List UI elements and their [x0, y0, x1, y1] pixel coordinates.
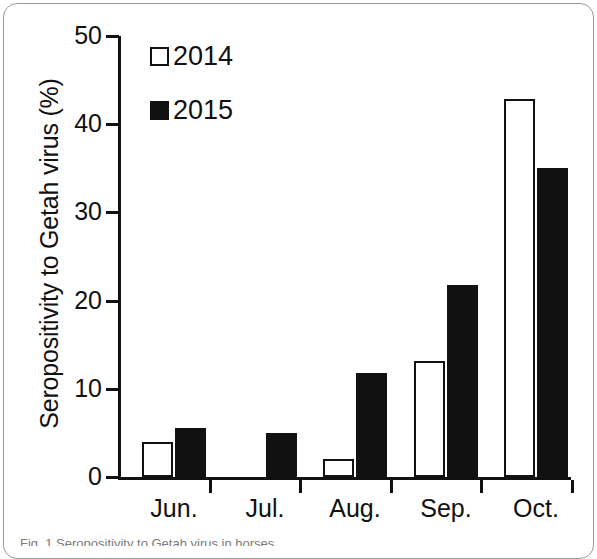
y-axis-tick-mark [106, 476, 119, 479]
y-axis-line [118, 36, 121, 479]
bar-2015-oct [537, 168, 568, 477]
legend-item-2014: 2014 [150, 38, 233, 74]
x-axis-tick-mark [571, 480, 574, 493]
y-axis-tick-label: 0 [46, 464, 102, 489]
y-axis-tick-label: 20 [46, 288, 102, 313]
x-axis-category-label: Sep. [402, 494, 490, 523]
bar-2015-jun [175, 428, 206, 477]
x-axis-tick-mark [480, 480, 483, 493]
legend-item-label: 2015 [173, 97, 233, 124]
legend-swatch-icon [150, 47, 169, 66]
y-axis-tick-labels: 01020304050 [46, 0, 102, 546]
y-axis-tick-mark [106, 35, 119, 38]
x-axis-tick-mark [209, 480, 212, 493]
legend-item-2015: 2015 [150, 92, 233, 128]
bar-2015-sep [447, 285, 478, 477]
y-axis-tick-label: 40 [46, 111, 102, 136]
x-axis-line [118, 477, 571, 480]
y-axis-tick-label: 10 [46, 376, 102, 401]
y-axis-tick-label: 30 [46, 199, 102, 224]
x-axis-category-label: Jun. [130, 494, 218, 523]
x-axis-tick-mark [390, 480, 393, 493]
bar-2014-jun [142, 442, 173, 477]
bar-2015-jul [266, 433, 297, 477]
bar-2014-sep [414, 361, 445, 477]
x-axis-category-label: Jul. [221, 494, 309, 523]
y-axis-tick-mark [106, 123, 119, 126]
bar-2014-aug [323, 459, 354, 477]
y-axis-tick-mark [106, 211, 119, 214]
chart-legend: 20142015 [150, 38, 233, 146]
legend-item-label: 2014 [173, 43, 233, 70]
y-axis-tick-mark [106, 388, 119, 391]
x-axis-tick-mark [299, 480, 302, 493]
y-axis-tick-mark [106, 300, 119, 303]
x-axis-category-label: Oct. [492, 494, 580, 523]
x-axis-category-label: Aug. [311, 494, 399, 523]
figure-caption: Fig. 1 Seropositivity to Getah virus in … [20, 536, 580, 546]
bar-2014-oct [504, 99, 535, 477]
y-axis-tick-label: 50 [46, 23, 102, 48]
legend-swatch-icon [150, 101, 169, 120]
bar-2015-aug [356, 373, 387, 477]
